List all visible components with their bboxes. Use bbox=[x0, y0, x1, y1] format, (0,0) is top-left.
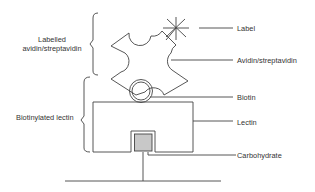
brace-biotinylated-lectin bbox=[81, 77, 90, 152]
avidin-streptavidin-shape bbox=[111, 31, 188, 95]
brace-labelled-avidin bbox=[90, 13, 98, 75]
label-star-icon bbox=[163, 17, 189, 40]
labelled-avidin-line1: Labelled bbox=[16, 35, 88, 44]
biotin-circle-outer bbox=[130, 80, 153, 103]
label-text: Label bbox=[237, 24, 255, 33]
biotin-text: Biotin bbox=[237, 93, 256, 102]
carbohydrate-square bbox=[135, 134, 153, 151]
carbohydrate-text: Carbohydrate bbox=[237, 151, 282, 160]
labelled-avidin-text: Labelled avidin/streptavidin bbox=[16, 35, 88, 53]
diagram-canvas bbox=[0, 0, 315, 192]
biotin-circle-inner bbox=[132, 82, 150, 100]
labelled-avidin-line2: avidin/streptavidin bbox=[16, 44, 88, 53]
avidin-streptavidin-text: Avidin/streptavidin bbox=[237, 56, 297, 65]
lectin-text: Lectin bbox=[237, 118, 257, 127]
biotinylated-lectin-text: Biotinylated lectin bbox=[16, 113, 74, 122]
